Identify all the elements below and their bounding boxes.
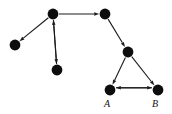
graph-node	[10, 40, 21, 51]
nodes-layer	[10, 9, 164, 96]
graph-node	[123, 47, 134, 58]
node-label-b: B	[152, 98, 158, 109]
graph-edge	[53, 20, 56, 59]
figure-canvas: AB	[0, 0, 172, 114]
edge-arrowhead-icon	[121, 42, 125, 47]
edges-layer	[19, 12, 154, 89]
graph-edge	[108, 19, 122, 43]
edge-arrowhead-icon	[116, 86, 121, 89]
graph-edge	[23, 18, 48, 38]
graph-node	[52, 65, 63, 76]
graph-node	[105, 85, 116, 96]
graph-edge	[132, 57, 152, 82]
graph-node	[100, 9, 111, 20]
graph-edge	[115, 57, 126, 80]
graph-node	[153, 85, 164, 96]
graph-node	[48, 9, 59, 20]
edge-arrowhead-icon	[94, 12, 99, 15]
labels-layer: AB	[103, 98, 158, 109]
node-label-a: A	[103, 98, 111, 109]
directed-graph-diagram: AB	[0, 0, 172, 114]
edge-arrowhead-icon	[112, 80, 116, 85]
